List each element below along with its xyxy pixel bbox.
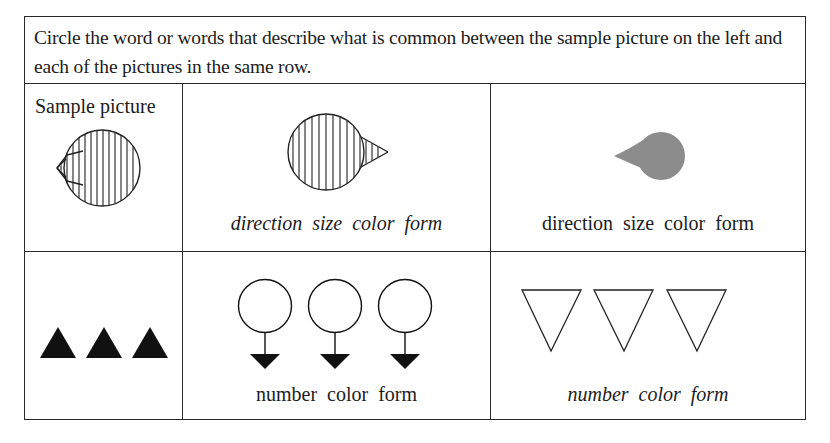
gray-droplet-left-icon	[491, 84, 805, 204]
caption-row-1-col-2: direction size color form	[491, 212, 805, 235]
row-1: Sample picture	[25, 84, 805, 252]
row-2: number color form number color form	[25, 252, 805, 419]
sample-cell-row-1: Sample picture	[25, 84, 183, 251]
striped-droplet-right-icon	[183, 84, 491, 204]
instructions-text: Circle the word or words that describe w…	[25, 17, 805, 84]
filled-triangle-up-icon	[25, 252, 183, 419]
outline-triangle-down-icon	[491, 252, 805, 377]
item-cell-row-2-col-1: number color form	[183, 252, 491, 419]
caption-row-1-col-1: direction size color form	[183, 212, 490, 235]
sample-cell-row-2	[25, 252, 183, 419]
item-cell-row-1-col-1: direction size color form	[183, 84, 491, 251]
caption-row-2-col-1: number color form	[183, 383, 490, 406]
item-cell-row-1-col-2: direction size color form	[491, 84, 805, 251]
worksheet-table: Circle the word or words that describe w…	[24, 16, 806, 420]
item-cell-row-2-col-2: number color form	[491, 252, 805, 419]
caption-row-2-col-2: number color form	[491, 383, 805, 406]
circle-arrow-down-icon	[183, 252, 491, 377]
striped-droplet-left-icon	[25, 84, 183, 252]
worksheet-page: Circle the word or words that describe w…	[0, 0, 830, 443]
